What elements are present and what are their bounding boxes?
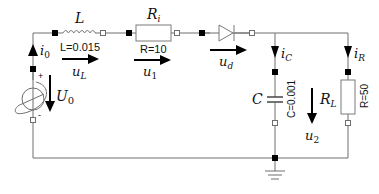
pin-l-out	[101, 31, 106, 36]
voltage-arrow-u0: U0	[45, 75, 74, 112]
u1-label: u1	[143, 64, 157, 81]
ic-label: iC	[281, 46, 292, 63]
source-sweep-icon	[15, 82, 46, 114]
source-plus-label: +	[38, 71, 43, 81]
resistor-ri-body-icon	[136, 25, 171, 41]
ri-param: R=10	[140, 43, 167, 55]
current-arrow-i0: i0	[28, 43, 50, 60]
current-arrow-ir: iR	[344, 46, 365, 63]
pin-diode-in	[199, 30, 205, 36]
resistor-rl: RL R=50	[319, 69, 370, 126]
ul-label: uL	[72, 64, 86, 81]
pin-source-plus	[30, 66, 36, 72]
ud-label: ud	[219, 54, 233, 71]
wire-top-right	[250, 33, 348, 70]
diode-triangle-icon	[219, 25, 233, 41]
u2-label: u2	[305, 128, 319, 145]
pin-l-in	[52, 30, 58, 36]
inductor: L L=0.015	[52, 10, 106, 53]
pin-c-in	[272, 69, 278, 75]
voltage-arrow-ul: uL	[62, 54, 99, 81]
current-arrow-ic: iC	[271, 46, 292, 63]
inductor-symbol: L	[74, 10, 84, 26]
u0-label: U0	[56, 88, 74, 106]
ground-node	[272, 155, 278, 161]
capacitor-param: C=0.001	[286, 79, 297, 118]
pin-ri-out	[175, 31, 180, 36]
circuit-diagram: + - U0 i0 L L=0.015 uL Ri R=10	[0, 0, 379, 194]
inductor-param: L=0.015	[60, 41, 100, 53]
i0-label: i0	[40, 43, 50, 60]
voltage-arrow-u2: u2	[305, 88, 319, 145]
ground	[265, 155, 285, 179]
resistor-rl-body-icon	[341, 80, 355, 114]
diode	[199, 25, 255, 41]
source-minus-label: -	[38, 110, 41, 120]
ir-label: iR	[354, 46, 365, 63]
resistor-ri: Ri R=10	[126, 6, 180, 55]
pin-source-minus	[31, 118, 36, 123]
pin-rl-in	[345, 69, 351, 75]
ri-symbol: Ri	[146, 6, 161, 24]
capacitor-symbol: C	[252, 91, 263, 107]
inductor-coil-icon	[63, 31, 95, 34]
pin-c-out	[273, 121, 278, 126]
pin-diode-out	[250, 31, 255, 36]
rl-symbol: RL	[319, 91, 337, 109]
voltage-source: + -	[15, 66, 46, 126]
rl-param: R=50	[359, 83, 370, 108]
voltage-arrow-ud: ud	[210, 45, 247, 71]
voltage-arrow-u1: u1	[134, 55, 171, 81]
pin-rl-out	[346, 121, 351, 126]
capacitor: C C=0.001	[252, 69, 297, 126]
pin-ri-in	[126, 30, 132, 36]
